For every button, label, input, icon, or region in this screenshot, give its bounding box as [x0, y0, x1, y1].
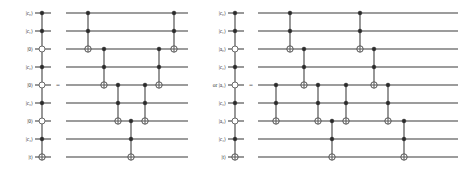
- control-dot[interactable]: [288, 11, 292, 15]
- control-dot[interactable]: [40, 11, 44, 15]
- wire-label: |0⟩: [27, 82, 33, 88]
- control-dot[interactable]: [40, 65, 44, 69]
- control-dot[interactable]: [143, 101, 147, 105]
- equality-symbol: =: [56, 81, 60, 89]
- control-dot[interactable]: [233, 65, 237, 69]
- not-target[interactable]: [171, 46, 177, 52]
- control-dot[interactable]: [344, 83, 348, 87]
- control-dot[interactable]: [143, 83, 147, 87]
- control-dot[interactable]: [116, 83, 120, 87]
- control-dot[interactable]: [129, 119, 133, 123]
- control-dot[interactable]: [358, 29, 362, 33]
- wire-label: or |a₁⟩: [213, 82, 226, 88]
- control-dot[interactable]: [358, 11, 362, 15]
- control-dot[interactable]: [233, 137, 237, 141]
- not-target[interactable]: [371, 82, 377, 88]
- not-target[interactable]: [315, 118, 321, 124]
- open-control-dot[interactable]: [39, 82, 45, 88]
- control-dot[interactable]: [402, 119, 406, 123]
- control-dot[interactable]: [172, 11, 176, 15]
- control-dot[interactable]: [302, 65, 306, 69]
- not-target[interactable]: [115, 118, 121, 124]
- control-dot[interactable]: [157, 47, 161, 51]
- open-control-dot[interactable]: [39, 46, 45, 52]
- not-target[interactable]: [156, 82, 162, 88]
- control-dot[interactable]: [102, 47, 106, 51]
- not-target[interactable]: [287, 46, 293, 52]
- control-dot[interactable]: [330, 119, 334, 123]
- not-target[interactable]: [301, 82, 307, 88]
- not-target[interactable]: [39, 154, 45, 160]
- control-dot[interactable]: [330, 137, 334, 141]
- control-dot[interactable]: [316, 101, 320, 105]
- control-dot[interactable]: [86, 29, 90, 33]
- not-target[interactable]: [343, 118, 349, 124]
- not-target[interactable]: [401, 154, 407, 160]
- control-dot[interactable]: [172, 29, 176, 33]
- control-dot[interactable]: [233, 11, 237, 15]
- not-target[interactable]: [357, 46, 363, 52]
- control-dot[interactable]: [233, 29, 237, 33]
- wire-label: |a₀⟩: [219, 46, 226, 52]
- wire-label: |c₂⟩: [26, 64, 33, 70]
- wire-label: |0⟩: [27, 118, 33, 124]
- open-control-dot[interactable]: [39, 118, 45, 124]
- open-control-dot[interactable]: [232, 118, 238, 124]
- control-dot[interactable]: [40, 137, 44, 141]
- wire-label: |c₄⟩: [219, 136, 226, 142]
- not-target[interactable]: [101, 82, 107, 88]
- control-dot[interactable]: [86, 11, 90, 15]
- wire-label: |t⟩: [28, 154, 33, 160]
- open-control-dot[interactable]: [232, 82, 238, 88]
- wire-label: |0⟩: [27, 46, 33, 52]
- control-dot[interactable]: [274, 101, 278, 105]
- control-dot[interactable]: [102, 65, 106, 69]
- control-dot[interactable]: [116, 101, 120, 105]
- control-dot[interactable]: [288, 29, 292, 33]
- control-dot[interactable]: [40, 101, 44, 105]
- figure-canvas: |c₀⟩|c₁⟩|0⟩|c₂⟩|0⟩|c₃⟩|0⟩|c₄⟩|t⟩=|c₀⟩|c₁…: [0, 0, 465, 174]
- open-control-dot[interactable]: [232, 46, 238, 52]
- control-dot[interactable]: [372, 47, 376, 51]
- control-dot[interactable]: [386, 101, 390, 105]
- not-target[interactable]: [85, 46, 91, 52]
- wire-label: |c₂⟩: [219, 64, 226, 70]
- quantum-circuit-diagram: |c₀⟩|c₁⟩|0⟩|c₂⟩|0⟩|c₃⟩|0⟩|c₄⟩|t⟩=|c₀⟩|c₁…: [0, 0, 465, 174]
- control-dot[interactable]: [302, 47, 306, 51]
- equality-symbol: =: [249, 81, 253, 89]
- control-dot[interactable]: [344, 101, 348, 105]
- wire-label: |c₄⟩: [26, 136, 33, 142]
- not-target[interactable]: [142, 118, 148, 124]
- control-dot[interactable]: [372, 65, 376, 69]
- control-dot[interactable]: [129, 137, 133, 141]
- wire-label: |t⟩: [221, 154, 226, 160]
- not-target[interactable]: [329, 154, 335, 160]
- control-dot[interactable]: [386, 83, 390, 87]
- not-target[interactable]: [232, 154, 238, 160]
- wire-label: |c₀⟩: [219, 10, 226, 16]
- wire-label: |c₃⟩: [26, 100, 33, 106]
- control-dot[interactable]: [40, 29, 44, 33]
- wire-label: |c₁⟩: [26, 28, 33, 34]
- wire-label: |a₂⟩: [219, 118, 226, 124]
- control-dot[interactable]: [157, 65, 161, 69]
- not-target[interactable]: [385, 118, 391, 124]
- not-target[interactable]: [273, 118, 279, 124]
- control-dot[interactable]: [402, 137, 406, 141]
- control-dot[interactable]: [274, 83, 278, 87]
- not-target[interactable]: [128, 154, 134, 160]
- wire-label: |c₀⟩: [26, 10, 33, 16]
- control-dot[interactable]: [316, 83, 320, 87]
- wire-label: |c₃⟩: [219, 100, 226, 106]
- control-dot[interactable]: [233, 101, 237, 105]
- wire-label: |c₁⟩: [219, 28, 226, 34]
